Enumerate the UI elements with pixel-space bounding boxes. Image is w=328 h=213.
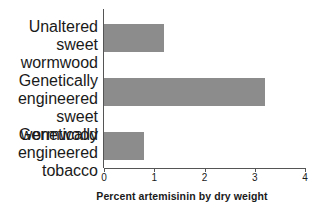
category-label-2: Genetically engineered tobacco: [8, 126, 98, 180]
x-tick-label-1: 1: [151, 172, 157, 184]
bar-ge-sweet-wormwood: [104, 78, 265, 106]
category-label-2-line-0: Genetically: [8, 126, 98, 144]
bar-row: [104, 78, 265, 106]
category-label-2-line-2: tobacco: [8, 162, 98, 180]
bar-unaltered-sweet-wormwood: [104, 24, 164, 52]
category-label-0: Unaltered sweet wormwood: [8, 18, 98, 72]
x-tick-label-4: 4: [302, 172, 308, 184]
category-label-1-line-1: engineered sweet: [8, 90, 98, 126]
category-label-0-line-2: wormwood: [8, 54, 98, 72]
category-label-0-line-1: sweet: [8, 36, 98, 54]
category-label-2-line-1: engineered: [8, 144, 98, 162]
x-tick-label-3: 3: [252, 172, 258, 184]
x-tick-label-0: 0: [101, 172, 107, 184]
bar-row: [104, 24, 164, 52]
x-axis-title: Percent artemisinin by dry weight: [0, 190, 328, 202]
x-axis-title-text: Percent artemisinin by dry weight: [96, 190, 267, 202]
category-label-0-line-0: Unaltered: [8, 18, 98, 36]
bar-chart: Unaltered sweet wormwood Genetically eng…: [0, 0, 328, 213]
bar-row: [104, 132, 144, 160]
x-tick-label-2: 2: [202, 172, 208, 184]
category-label-1-line-0: Genetically: [8, 72, 98, 90]
bar-ge-tobacco: [104, 132, 144, 160]
